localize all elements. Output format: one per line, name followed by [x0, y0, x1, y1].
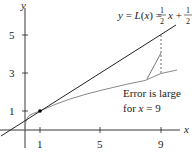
- eq-frac1-den: 2: [160, 17, 164, 26]
- note-line2: for x = 9: [123, 102, 161, 114]
- tangent-line: [1, 25, 176, 136]
- equation-prefix: y = L(x) =: [117, 9, 162, 22]
- eq-frac2-num: 1: [186, 6, 190, 15]
- x-tick-5: 5: [97, 138, 103, 150]
- sqrt-curve: [25, 70, 177, 130]
- y-tick-3: 3: [9, 67, 15, 79]
- tangent-point: [38, 109, 42, 113]
- y-tick-1: 1: [9, 105, 15, 117]
- y-axis-label: y: [20, 0, 26, 11]
- annotation-leader: [147, 53, 161, 79]
- eq-x-plus: x +: [167, 9, 182, 21]
- ticks: [22, 35, 161, 133]
- x-tick-9: 9: [158, 138, 164, 150]
- eq-frac2-den: 2: [186, 17, 190, 26]
- chart: x y 1 5 9 1 3 5 y = L(x) = 1 2 x + 1 2 E…: [0, 0, 194, 153]
- x-tick-1: 1: [37, 138, 43, 150]
- y-tick-5: 5: [9, 29, 15, 41]
- x-axis-label: x: [183, 123, 189, 135]
- eq-frac1-num: 1: [160, 6, 164, 15]
- note-line1: Error is large: [123, 87, 181, 99]
